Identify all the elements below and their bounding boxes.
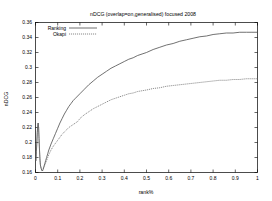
y-tick-label: 0.24 (22, 109, 32, 115)
legend-label-okapi: Okapi (53, 31, 66, 37)
x-tick-label: 0 (34, 175, 37, 181)
series-layer (36, 32, 258, 171)
x-tick-label: 0.4 (121, 175, 128, 181)
y-tick-label: 0.3 (25, 64, 32, 70)
x-tick-label: 0.8 (210, 175, 217, 181)
y-tick-label: 0.26 (22, 94, 32, 100)
chart-title: nDCG (overlap=on,generalised) focused 20… (90, 11, 196, 17)
x-axis-ticks: 00.10.20.30.40.50.60.70.80.91 (34, 23, 259, 181)
x-tick-label: 0.9 (232, 175, 239, 181)
chart-legend: Ranking Okapi (48, 25, 97, 37)
x-tick-label: 0.5 (143, 175, 150, 181)
y-tick-label: 0.32 (22, 49, 32, 55)
y-tick-label: 0.16 (22, 169, 32, 175)
x-tick-label: 0.3 (99, 175, 106, 181)
x-axis-label: rank% (139, 189, 154, 195)
y-tick-label: 0.22 (22, 124, 32, 130)
chart-container: nDCG (overlap=on,generalised) focused 20… (0, 0, 272, 201)
series-line-ranking (36, 32, 258, 171)
y-tick-label: 0.2 (25, 139, 32, 145)
x-tick-label: 0.7 (187, 175, 194, 181)
y-axis-ticks: 0.160.180.20.220.240.260.280.30.320.340.… (22, 19, 257, 175)
chart-canvas: nDCG (overlap=on,generalised) focused 20… (0, 0, 272, 201)
x-tick-label: 0.2 (76, 175, 83, 181)
y-tick-label: 0.34 (22, 34, 32, 40)
series-line-okapi (36, 79, 258, 171)
x-tick-label: 0.1 (54, 175, 61, 181)
x-tick-label: 1 (256, 175, 259, 181)
y-tick-label: 0.28 (22, 79, 32, 85)
y-axis-label: nDCG (3, 92, 9, 106)
plot-frame (36, 23, 258, 173)
y-tick-label: 0.18 (22, 154, 32, 160)
x-tick-label: 0.6 (165, 175, 172, 181)
y-tick-label: 0.36 (22, 19, 32, 25)
